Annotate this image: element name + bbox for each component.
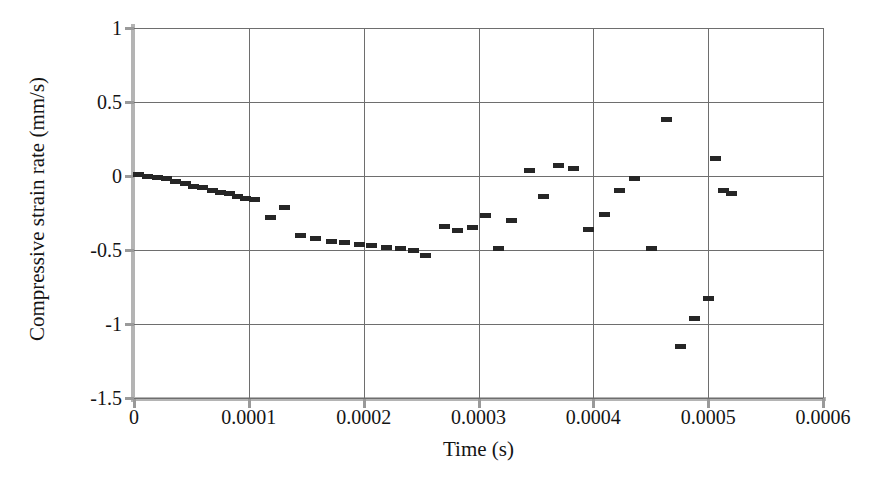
y-axis-tick: [125, 101, 134, 104]
x-tick-label: 0.0001: [221, 406, 276, 428]
x-tick-label: 0.0004: [566, 406, 621, 428]
data-point-marker: [326, 239, 337, 244]
data-point-marker: [675, 344, 686, 349]
y-tick-label: -1: [105, 314, 122, 334]
data-point-marker: [420, 253, 431, 258]
data-point-marker: [629, 176, 640, 181]
y-tick-label-group: 10.50-0.5-1-1.5: [52, 28, 122, 398]
data-point-marker: [599, 212, 610, 217]
x-tick-label: 0.0003: [451, 406, 506, 428]
grid-line-vertical: [249, 28, 250, 398]
data-point-marker: [279, 205, 290, 210]
y-tick-label: -0.5: [90, 240, 122, 260]
y-axis-tick: [125, 27, 134, 30]
data-point-marker: [689, 316, 700, 321]
y-tick-label: 1: [112, 18, 122, 38]
plot-area: [134, 28, 823, 398]
grid-line-vertical: [364, 28, 365, 398]
data-point-marker: [354, 242, 365, 247]
x-tick-label: 0.0005: [681, 406, 736, 428]
data-point-marker: [583, 227, 594, 232]
data-point-marker: [506, 218, 517, 223]
grid-line-horizontal: [134, 324, 823, 325]
data-point-marker: [439, 224, 450, 229]
x-axis-title: Time (s): [134, 437, 823, 461]
grid-line-horizontal: [134, 398, 823, 399]
data-point-marker: [265, 215, 276, 220]
y-axis-tick: [125, 323, 134, 326]
data-point-marker: [726, 191, 737, 196]
grid-line-horizontal: [134, 28, 823, 29]
x-tick-label-group: 00.00010.00020.00030.00040.00050.0006: [134, 406, 823, 432]
data-point-marker: [467, 225, 478, 230]
data-point-marker: [366, 243, 377, 248]
grid-line-vertical: [708, 28, 709, 398]
data-point-marker: [452, 228, 463, 233]
y-axis-title: Compressive strain rate (mm/s): [25, 9, 49, 409]
data-point-marker: [493, 246, 504, 251]
data-point-marker: [310, 236, 321, 241]
grid-line-horizontal: [134, 250, 823, 251]
grid-line-vertical: [823, 28, 824, 398]
data-point-marker: [295, 233, 306, 238]
data-point-marker: [339, 240, 350, 245]
x-tick-label: 0: [129, 406, 139, 428]
data-point-marker: [614, 188, 625, 193]
y-axis-line: [131, 24, 135, 402]
data-point-marker: [480, 213, 491, 218]
grid-line-horizontal: [134, 102, 823, 103]
grid-line-horizontal: [134, 176, 823, 177]
data-point-marker: [646, 246, 657, 251]
data-point-marker: [703, 296, 714, 301]
x-tick-label: 0.0006: [796, 406, 851, 428]
grid-line-vertical: [593, 28, 594, 398]
data-point-marker: [553, 163, 564, 168]
data-point-marker: [661, 117, 672, 122]
chart-figure: 10.50-0.5-1-1.5 Compressive strain rate …: [0, 0, 886, 489]
y-axis-tick: [125, 249, 134, 252]
y-tick-label: 0.5: [97, 92, 122, 112]
y-tick-label: -1.5: [90, 388, 122, 408]
data-point-marker: [568, 166, 579, 171]
data-point-marker: [710, 156, 721, 161]
data-point-marker: [395, 246, 406, 251]
y-tick-label: 0: [112, 166, 122, 186]
data-point-marker: [538, 194, 549, 199]
y-axis-tick: [125, 397, 134, 400]
data-point-marker: [381, 245, 392, 250]
data-point-marker: [524, 168, 535, 173]
data-point-marker: [408, 248, 419, 253]
x-tick-label: 0.0002: [336, 406, 391, 428]
data-point-marker: [249, 197, 260, 202]
